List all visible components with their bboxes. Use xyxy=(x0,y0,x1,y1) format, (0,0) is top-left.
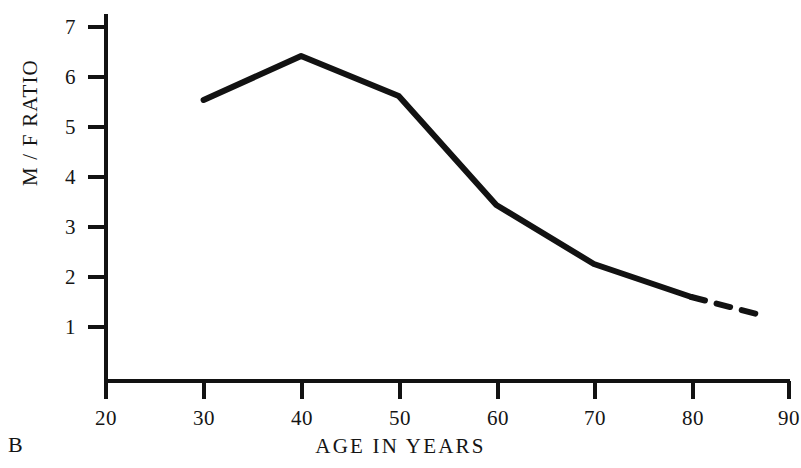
panel-label: B xyxy=(8,432,23,458)
y-tick-label-5: 5 xyxy=(46,115,76,140)
x-tick-label-70: 70 xyxy=(572,406,618,431)
y-tick-label-2: 2 xyxy=(46,265,76,290)
y-tick-label-3: 3 xyxy=(46,215,76,240)
figure-panel: 7 6 5 4 3 2 1 20 30 40 50 60 70 80 90 M … xyxy=(0,0,801,468)
x-tick-label-90: 90 xyxy=(766,406,801,431)
y-tick-label-6: 6 xyxy=(46,65,76,90)
series-observed-line xyxy=(204,56,692,297)
y-tick-label-7: 7 xyxy=(46,15,76,40)
x-axis-title: AGE IN YEARS xyxy=(0,434,801,459)
x-tick-label-30: 30 xyxy=(181,406,227,431)
y-tick-label-1: 1 xyxy=(46,315,76,340)
x-tick-label-80: 80 xyxy=(670,406,716,431)
chart-plot-area xyxy=(0,0,801,468)
y-axis-title: M / F RATIO xyxy=(18,43,43,203)
x-tick-label-60: 60 xyxy=(475,406,521,431)
x-axis-ticks xyxy=(106,381,789,399)
x-tick-label-20: 20 xyxy=(83,406,129,431)
series-extrapolated-line xyxy=(691,297,764,316)
x-tick-label-50: 50 xyxy=(377,406,423,431)
x-tick-label-40: 40 xyxy=(279,406,325,431)
y-tick-label-4: 4 xyxy=(46,165,76,190)
